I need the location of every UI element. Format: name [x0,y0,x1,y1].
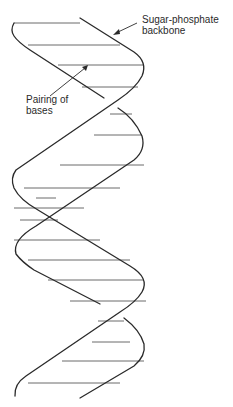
backbone-label-line1: Sugar-phosphate [142,14,219,25]
base-pair-rungs [14,23,146,383]
pairing-label-line1: Pairing of [26,94,68,105]
backbone-pointer [113,23,137,35]
dna-helix-diagram [0,0,233,407]
pairing-pointer [50,65,88,96]
backbone-strand-a [12,18,144,396]
pairing-label-line2: bases [26,105,68,116]
backbone-label-line2: backbone [142,25,219,36]
backbone-label: Sugar-phosphate backbone [142,14,219,36]
pairing-label: Pairing of bases [26,94,68,116]
